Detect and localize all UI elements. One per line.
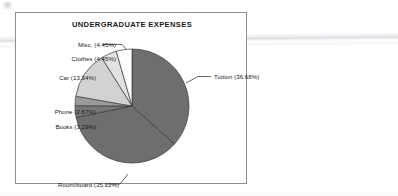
leader-line-tuition bbox=[186, 77, 211, 84]
slice-label-clothes: Clothes (4.45%) bbox=[43, 56, 116, 62]
slice-label-roomboard: Room/board (35.12%) bbox=[31, 182, 119, 188]
pie-chart: Misc. (4.45%) Clothes (4.45%) Car (13.34… bbox=[16, 13, 248, 185]
pie-slices bbox=[75, 49, 189, 163]
chart-frame: UNDERGRADUATE EXPENSES Misc. (4.45%) Clo… bbox=[15, 12, 247, 184]
pie-chart-svg bbox=[16, 13, 248, 185]
slice-label-books: Books (3.29%) bbox=[36, 124, 96, 130]
slice-label-misc: Misc. (4.45%) bbox=[56, 42, 116, 48]
slice-label-car: Car (13.34%) bbox=[34, 75, 96, 81]
slice-label-phone: Phone (2.67%) bbox=[36, 109, 96, 115]
slice-label-tuition: Tuition (36.68%) bbox=[214, 74, 306, 80]
